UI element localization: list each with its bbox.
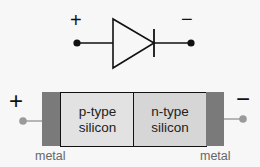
metal-label-left: metal <box>35 149 66 163</box>
p-region-label-line1: p-type <box>79 104 117 120</box>
metal-label-right: metal <box>200 149 231 163</box>
n-region-label-line2: silicon <box>151 120 189 136</box>
diode-structure-panel: p-type silicon n-type silicon + − metal … <box>0 80 260 167</box>
diode-symbol-icon <box>0 0 260 80</box>
symbol-cathode-sign: − <box>181 9 193 29</box>
n-type-region: n-type silicon <box>133 92 207 147</box>
metal-contact-left <box>42 92 60 146</box>
device-cathode-sign: − <box>236 87 250 111</box>
symbol-anode-sign: + <box>70 10 82 30</box>
n-region-label-line1: n-type <box>151 104 189 120</box>
p-region-label-line2: silicon <box>79 120 117 136</box>
metal-contact-right <box>206 92 224 146</box>
diode-symbol-panel: + − <box>0 0 260 80</box>
p-type-region: p-type silicon <box>60 92 134 147</box>
device-anode-sign: + <box>9 89 23 113</box>
